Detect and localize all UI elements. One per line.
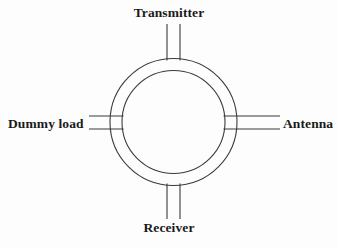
transmitter-label: Transmitter xyxy=(0,6,338,20)
antenna-port-stub xyxy=(224,116,281,129)
dummy-load-port-stub xyxy=(89,116,124,129)
receiver-label: Receiver xyxy=(0,221,338,235)
antenna-label: Antenna xyxy=(283,117,333,131)
receiver-port-stub xyxy=(167,184,180,220)
inner-ring-circle xyxy=(122,71,225,174)
figure-canvas: Transmitter Receiver Dummy load Antenna xyxy=(0,0,338,249)
dummy-load-label: Dummy load xyxy=(8,117,84,131)
outer-ring-circle xyxy=(110,59,237,186)
transmitter-port-stub xyxy=(167,24,180,61)
